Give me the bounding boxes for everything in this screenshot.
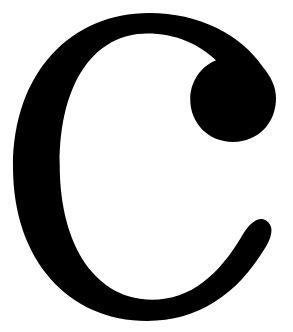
glyph-svg [0, 0, 293, 332]
glyph-canvas [0, 0, 293, 332]
